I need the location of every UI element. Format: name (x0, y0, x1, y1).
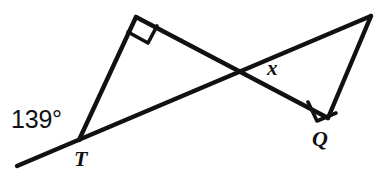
vertex-label-q: Q (312, 128, 328, 150)
unknown-angle-label-x: x (267, 58, 278, 79)
geometry-figure: 139° T Q x (0, 0, 388, 179)
angle-label-139: 139° (11, 107, 62, 132)
vertex-label-t: T (74, 148, 87, 170)
geometry-canvas (0, 0, 388, 179)
